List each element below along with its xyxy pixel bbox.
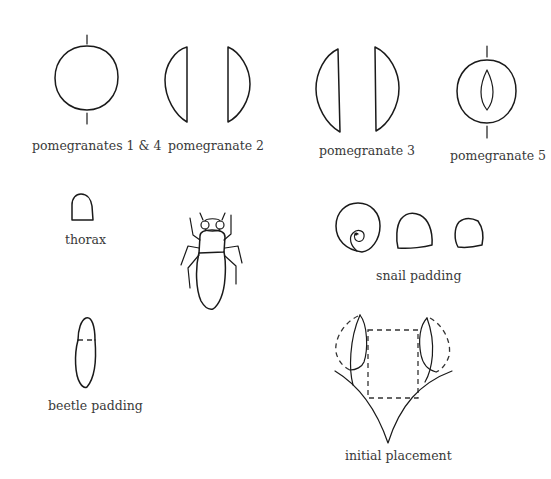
leaf-left-dashed — [336, 316, 358, 370]
thorax-shape — [72, 194, 93, 220]
pomegranates-1-4-figure: pomegranates 1 & 4 — [32, 35, 162, 153]
thorax-label: thorax — [65, 232, 106, 247]
initial-placement-label: initial placement — [345, 448, 452, 463]
leaves — [350, 315, 436, 372]
snail-shell — [336, 203, 380, 252]
pomegranate-5-label: pomegranate 5 — [450, 148, 546, 163]
pomegranate-circle — [457, 60, 516, 123]
beetle-thorax — [199, 230, 225, 253]
pomegranate-3-figure: pomegranate 3 — [316, 47, 415, 158]
beetle-eye-left — [201, 221, 209, 229]
half-left — [165, 47, 187, 122]
pomegranate-3-label: pomegranate 3 — [319, 143, 415, 158]
beetle-figure — [181, 213, 242, 309]
half-left — [316, 49, 340, 132]
snail-padding-label: snail padding — [376, 268, 461, 283]
initial-placement-figure: initial placement — [335, 315, 452, 463]
beetle-middle-legs — [181, 246, 242, 265]
pomegranate-2-label: pomegranate 2 — [168, 138, 264, 153]
snail-spiral-center — [354, 232, 357, 235]
beetle-hind-legs — [188, 255, 236, 288]
snail-pad-small — [455, 219, 483, 248]
beetle-padding-figure: beetle padding — [48, 318, 143, 413]
half-right — [228, 47, 250, 122]
beetle-eye-right — [216, 221, 224, 229]
pomegranates-1-4-label: pomegranates 1 & 4 — [32, 138, 162, 153]
pomegranate-circle — [55, 46, 118, 110]
snail-padding-figure: snail padding — [336, 203, 483, 283]
placement-rectangle — [368, 330, 418, 398]
pomegranate-2-figure: pomegranate 2 — [165, 47, 264, 153]
beetle-padding-body — [76, 340, 96, 388]
thorax-figure: thorax — [65, 194, 106, 247]
snail-pad-large — [397, 213, 432, 248]
beetle-padding-top — [78, 318, 95, 340]
diagram-canvas: pomegranates 1 & 4 pomegranate 2 pomegra… — [0, 0, 551, 479]
beetle-padding-label: beetle padding — [48, 398, 143, 413]
pomegranate-5-figure: pomegranate 5 — [450, 46, 546, 163]
beetle-abdomen — [197, 252, 226, 309]
half-right — [375, 47, 399, 131]
inner-slit — [481, 70, 493, 110]
